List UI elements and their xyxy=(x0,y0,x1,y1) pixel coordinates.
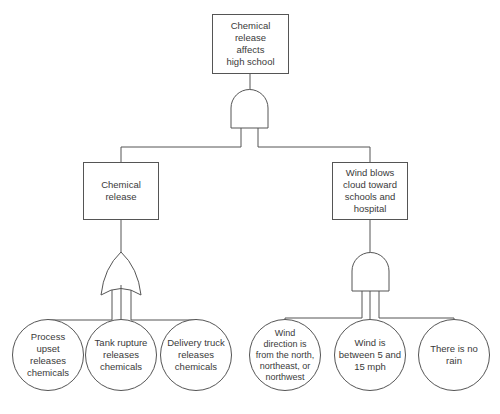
basic-event-label: There is no rain xyxy=(430,343,478,367)
intermediate-event-label: Wind blows cloud toward schools and hosp… xyxy=(343,167,397,215)
intermediate-event-chemical-release: Chemical release xyxy=(83,162,159,220)
basic-event-process-upset: Process upset releases chemicals xyxy=(12,319,84,391)
basic-event-wind-direction: Wind direction is from the north, northe… xyxy=(249,319,321,391)
top-event-box: Chemical release affects high school xyxy=(212,14,289,74)
basic-event-no-rain: There is no rain xyxy=(418,319,490,391)
basic-event-label: Process upset releases chemicals xyxy=(27,331,69,379)
basic-event-label: Wind is between 5 and 15 mph xyxy=(339,337,401,373)
intermediate-event-wind-blows: Wind blows cloud toward schools and hosp… xyxy=(332,162,408,220)
basic-event-delivery-truck: Delivery truck releases chemicals xyxy=(160,319,232,391)
intermediate-event-label: Chemical release xyxy=(101,179,141,203)
top-event-label: Chemical release affects high school xyxy=(226,20,274,68)
basic-event-label: Delivery truck releases chemicals xyxy=(167,337,225,373)
basic-event-tank-rupture: Tank rupture releases chemicals xyxy=(85,319,157,391)
basic-event-label: Tank rupture releases chemicals xyxy=(95,337,148,373)
and-gate-icon xyxy=(352,253,389,291)
and-gate-icon xyxy=(231,90,268,128)
basic-event-label: Wind direction is from the north, northe… xyxy=(256,328,315,383)
basic-event-wind-speed: Wind is between 5 and 15 mph xyxy=(334,319,406,391)
